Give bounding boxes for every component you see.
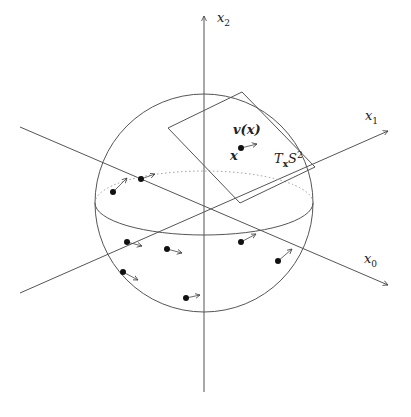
point-label: x — [230, 148, 238, 163]
tangent-plane-label: TxS2 — [274, 150, 303, 169]
vector-label: v(x) — [233, 122, 261, 137]
x0-label: x0 — [364, 251, 377, 269]
sphere-diagram — [0, 0, 411, 417]
x2-label: x2 — [217, 10, 230, 28]
x1-label: x1 — [365, 108, 378, 126]
vector-field — [110, 144, 292, 301]
point-x — [238, 145, 244, 151]
